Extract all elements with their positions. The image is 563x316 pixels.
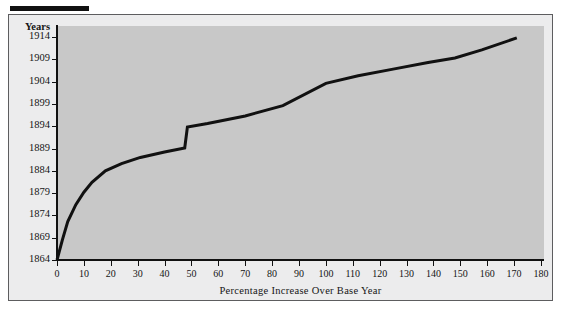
y-tick-1914 [52, 37, 57, 38]
x-tick-label-30: 30 [123, 268, 153, 279]
x-tick-180 [541, 261, 542, 266]
x-tick-40 [165, 261, 166, 266]
y-tick-label-1874: 1874 [0, 208, 50, 219]
x-tick-130 [407, 261, 408, 266]
x-tick-label-120: 120 [365, 268, 395, 279]
x-tick-label-180: 180 [526, 268, 556, 279]
y-tick-label-1914: 1914 [0, 30, 50, 41]
y-tick-1899 [52, 104, 57, 105]
x-tick-110 [353, 261, 354, 266]
x-tick-150 [460, 261, 461, 266]
x-tick-170 [514, 261, 515, 266]
x-tick-label-110: 110 [338, 268, 368, 279]
x-tick-label-100: 100 [311, 268, 341, 279]
x-tick-10 [84, 261, 85, 266]
x-axis-line [56, 259, 544, 261]
x-tick-label-40: 40 [150, 268, 180, 279]
x-tick-60 [218, 261, 219, 266]
y-tick-label-1879: 1879 [0, 186, 50, 197]
x-tick-label-170: 170 [499, 268, 529, 279]
y-tick-1864 [52, 260, 57, 261]
y-tick-1874 [52, 215, 57, 216]
y-tick-1884 [52, 171, 57, 172]
x-tick-160 [487, 261, 488, 266]
x-tick-70 [245, 261, 246, 266]
x-tick-label-70: 70 [230, 268, 260, 279]
y-tick-label-1869: 1869 [0, 231, 50, 242]
y-tick-1869 [52, 238, 57, 239]
x-tick-0 [57, 261, 58, 266]
x-tick-label-20: 20 [96, 268, 126, 279]
plot-area [57, 26, 544, 260]
x-tick-100 [326, 261, 327, 266]
x-axis-title: Percentage Increase Over Base Year [57, 285, 544, 296]
x-tick-30 [138, 261, 139, 266]
x-tick-50 [191, 261, 192, 266]
y-tick-label-1909: 1909 [0, 52, 50, 63]
y-axis-line [56, 25, 58, 261]
x-tick-label-60: 60 [203, 268, 233, 279]
x-tick-label-10: 10 [69, 268, 99, 279]
x-tick-140 [433, 261, 434, 266]
x-tick-label-150: 150 [445, 268, 475, 279]
chart-figure: Years 0102030405060708090100110120130140… [0, 0, 563, 316]
y-tick-1904 [52, 82, 57, 83]
y-tick-label-1894: 1894 [0, 119, 50, 130]
x-tick-label-140: 140 [418, 268, 448, 279]
x-tick-label-0: 0 [42, 268, 72, 279]
y-tick-label-1884: 1884 [0, 164, 50, 175]
y-tick-label-1904: 1904 [0, 75, 50, 86]
x-tick-label-160: 160 [472, 268, 502, 279]
y-tick-1894 [52, 126, 57, 127]
x-tick-120 [380, 261, 381, 266]
y-tick-label-1889: 1889 [0, 142, 50, 153]
y-tick-label-1899: 1899 [0, 97, 50, 108]
y-tick-1879 [52, 193, 57, 194]
y-tick-1909 [52, 59, 57, 60]
top-rule-decoration [10, 6, 89, 11]
x-tick-label-50: 50 [176, 268, 206, 279]
x-tick-label-90: 90 [284, 268, 314, 279]
x-tick-90 [299, 261, 300, 266]
y-tick-1889 [52, 149, 57, 150]
x-tick-label-130: 130 [392, 268, 422, 279]
y-tick-label-1864: 1864 [0, 253, 50, 264]
x-tick-label-80: 80 [257, 268, 287, 279]
x-tick-20 [111, 261, 112, 266]
x-tick-80 [272, 261, 273, 266]
